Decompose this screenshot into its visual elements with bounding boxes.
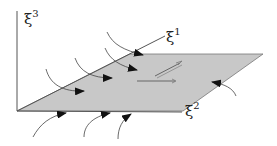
axis-label-xi2: ξ2 (185, 104, 200, 119)
flow-arrow-5 (33, 113, 66, 137)
flow-arrow-6 (84, 113, 110, 137)
diagram-canvas (0, 0, 277, 146)
flow-arrow-4 (107, 32, 143, 55)
axis-label-xi1: ξ1 (166, 30, 181, 45)
axis-label-xi3: ξ3 (24, 12, 39, 27)
flow-arrow-7 (118, 114, 131, 139)
